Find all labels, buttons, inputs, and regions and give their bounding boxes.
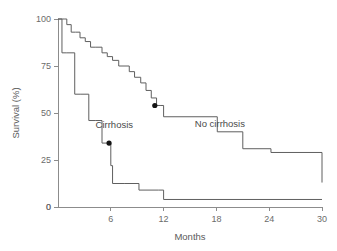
x-tick-label: 18 xyxy=(211,214,221,224)
y-tick-label: 75 xyxy=(41,61,51,71)
y-axis-title: Survival (%) xyxy=(10,87,21,138)
y-tick-label: 100 xyxy=(36,14,51,24)
x-axis-title: Months xyxy=(174,231,205,242)
series-label-0: No cirrhosis xyxy=(195,118,245,129)
series-line-0 xyxy=(58,19,322,183)
series-lines xyxy=(58,19,322,199)
x-tick-label: 30 xyxy=(317,214,327,224)
x-tick-label: 12 xyxy=(159,214,169,224)
survival-chart: 0255075100 0612182430 Survival (%) Month… xyxy=(0,0,337,251)
y-axis: 0255075100 xyxy=(36,14,58,212)
series-annotations: No cirrhosisCirrhosis xyxy=(96,118,246,130)
x-tick-label: 6 xyxy=(108,214,113,224)
km-survival-plot: 0255075100 0612182430 Survival (%) Month… xyxy=(0,0,337,251)
y-tick-label: 25 xyxy=(41,155,51,165)
series-marker-0 xyxy=(152,103,157,108)
x-tick-label: 24 xyxy=(264,214,274,224)
y-tick-label: 50 xyxy=(41,108,51,118)
x-axis: 0612182430 xyxy=(46,202,327,224)
series-marker-1 xyxy=(106,140,111,145)
series-line-1 xyxy=(58,19,322,199)
series-label-1: Cirrhosis xyxy=(96,119,134,130)
x-tick-label-zero: 0 xyxy=(46,202,51,212)
